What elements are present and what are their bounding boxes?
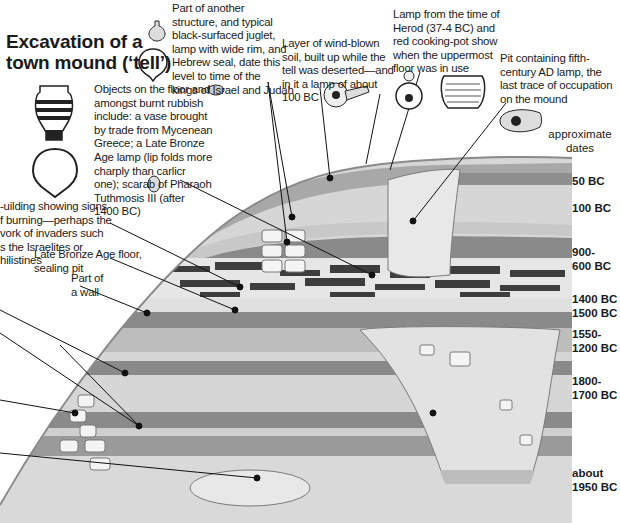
date-label: about1950 BC: [572, 467, 617, 494]
date-text: 1550-: [572, 328, 617, 342]
caption-line: level to time of the: [172, 70, 294, 84]
caption-line: 1400 BC): [94, 205, 212, 219]
caption-line: red cooking-pot show: [393, 35, 500, 49]
caption-line: 100 BC: [282, 91, 394, 105]
caption-line: Objects on the floor and: [94, 83, 212, 97]
caption-line: when the uppermost: [393, 49, 500, 63]
cooking-pot-icon: [440, 70, 486, 112]
title-line-1: Excavation of a: [6, 31, 171, 52]
caption-line: vork of invaders such: [0, 227, 112, 241]
date-text: 1700 BC: [572, 389, 617, 403]
caption-line: by trade from Mycenean: [94, 124, 212, 138]
caption-line: Age lamp (lip folds more: [94, 151, 212, 165]
caption-line: f burning—perhaps the: [0, 214, 112, 228]
title-line-2: town mound (‘tell’): [6, 52, 171, 73]
caption-line: charply than carlicr: [94, 165, 212, 179]
date-label: 1500 BC: [572, 307, 617, 321]
page-title: Excavation of a town mound (‘tell’): [6, 31, 171, 73]
caption-line: floor was in use: [393, 62, 500, 76]
late-bronze-lamp-icon: [30, 147, 80, 199]
caption-line: Lamp from the time of: [393, 8, 500, 22]
caption-wind-blown-soil: Layer of wind-blown soil, built up while…: [282, 37, 394, 105]
dates-header-line: dates: [540, 141, 620, 155]
caption-line: one); scarab of Pharaoh: [94, 178, 212, 192]
caption-fifth-century-pit: Pit containing fifth- century AD lamp, t…: [500, 52, 612, 106]
caption-line: Part of: [71, 272, 103, 286]
caption-line: amongst burnt rubbish: [94, 97, 212, 111]
date-label: 900-600 BC: [572, 246, 611, 273]
date-label: 1800-1700 BC: [572, 375, 617, 402]
date-text: about: [572, 467, 617, 481]
caption-line: -uilding showing signs: [0, 200, 112, 214]
caption-line: Pit containing fifth-: [500, 52, 612, 66]
date-label: 50 BC: [572, 175, 605, 189]
caption-line: lamp with wide rim, and: [172, 43, 294, 57]
caption-line: on the mound: [500, 93, 612, 107]
date-text: 1200 BC: [572, 342, 617, 356]
date-text: 100 BC: [572, 202, 611, 216]
date-text: 1800-: [572, 375, 617, 389]
caption-line: Hebrew seal, date this: [172, 56, 294, 70]
caption-line: Layer of wind-blown: [282, 37, 394, 51]
date-text: 600 BC: [572, 260, 611, 274]
caption-line: Part of another: [172, 2, 294, 16]
caption-line: last trace of occupation: [500, 79, 612, 93]
caption-line: Herod (37-4 BC) and: [393, 22, 500, 36]
date-text: 1950 BC: [572, 481, 617, 495]
caption-line: Greece; a Late Bronze: [94, 137, 212, 151]
caption-line: in it a lamp of about: [282, 78, 394, 92]
mycenean-vase-icon: [32, 84, 76, 144]
caption-line: black-surfaced juglet,: [172, 29, 294, 43]
date-label: 1550-1200 BC: [572, 328, 617, 355]
caption-line: include: a vase brought: [94, 110, 212, 124]
caption-line: Tuthmosis III (after: [94, 192, 212, 206]
date-label: 1400 BC: [572, 293, 617, 307]
caption-line: structure, and typical: [172, 16, 294, 30]
date-text: 1500 BC: [572, 307, 617, 321]
dates-header: approximate dates: [540, 127, 620, 155]
caption-line: a wall: [71, 286, 103, 300]
caption-line: soil, built up while the: [282, 51, 394, 65]
date-text: 50 BC: [572, 175, 605, 189]
date-text: 900-: [572, 246, 611, 260]
date-label: 100 BC: [572, 202, 611, 216]
caption-part-of-wall: Part of a wall: [71, 272, 103, 299]
caption-line: century AD lamp, the: [500, 66, 612, 80]
dates-header-line: approximate: [540, 127, 620, 141]
caption-line: Late Bronze Age floor,: [34, 248, 142, 262]
date-text: 1400 BC: [572, 293, 617, 307]
caption-line: tell was deserted—and: [282, 64, 394, 78]
caption-burnt-rubbish: Objects on the floor and amongst burnt r…: [94, 83, 212, 219]
fifth-century-lamp-icon: [496, 105, 544, 137]
caption-herod-lamp: Lamp from the time of Herod (37-4 BC) an…: [393, 8, 500, 76]
